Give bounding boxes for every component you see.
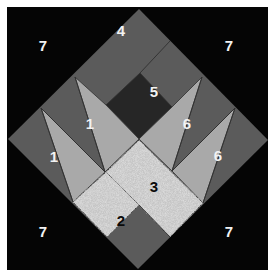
label-7-bottom-right: 7 <box>225 223 233 240</box>
label-7-top-left: 7 <box>39 37 47 54</box>
label-3: 3 <box>150 178 158 195</box>
label-5: 5 <box>150 83 158 100</box>
quilt-block-diagram: 7 7 7 7 4 5 1 1 6 6 3 2 <box>0 0 273 276</box>
label-6-upper: 6 <box>183 115 191 132</box>
label-7-bottom-left: 7 <box>39 223 47 240</box>
label-1-upper: 1 <box>86 115 94 132</box>
label-6-lower: 6 <box>214 147 222 164</box>
label-1-lower: 1 <box>50 148 58 165</box>
label-2: 2 <box>117 212 125 229</box>
label-7-top-right: 7 <box>225 37 233 54</box>
label-4: 4 <box>117 22 126 39</box>
